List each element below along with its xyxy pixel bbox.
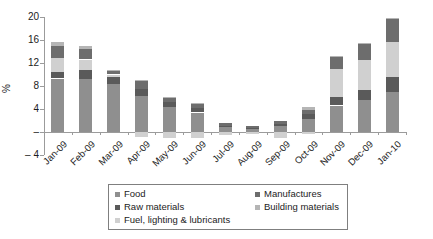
- bar-segment: [51, 72, 64, 79]
- bar-segment: [191, 103, 204, 104]
- bar-segment: [246, 132, 259, 134]
- y-tick-mark: [40, 109, 44, 110]
- bar-segment: [330, 69, 343, 97]
- bar-segment: [274, 121, 287, 124]
- bar-segment: [219, 132, 232, 135]
- bar-segment: [302, 110, 315, 115]
- bar-segment: [386, 42, 399, 77]
- x-tick-mark: [44, 132, 45, 135]
- bar-segment: [107, 77, 120, 84]
- bar-segment: [246, 128, 259, 129]
- x-tick-mark: [183, 132, 184, 135]
- bar-segment: [386, 18, 399, 19]
- y-tick-label: 12: [0, 58, 39, 68]
- bar-segment: [330, 56, 343, 57]
- y-tick-mark: [40, 63, 44, 64]
- bar-segment: [330, 106, 343, 132]
- bar-segment: [219, 126, 232, 128]
- x-tick-mark: [267, 132, 268, 135]
- bar-segment: [135, 89, 148, 96]
- bar-segment: [246, 126, 259, 128]
- bar-segment: [79, 79, 92, 132]
- bar-segment: [358, 100, 371, 132]
- bar-segment: [135, 96, 148, 132]
- x-tick-mark: [295, 132, 296, 135]
- bar-segment: [274, 124, 287, 126]
- y-tick-mark: [40, 40, 44, 41]
- legend-swatch-icon: [115, 218, 120, 223]
- bar-segment: [274, 132, 287, 138]
- bar-segment: [191, 132, 204, 138]
- x-tick-mark: [378, 132, 379, 135]
- bar-segment: [163, 107, 176, 132]
- bar-segment: [107, 70, 120, 71]
- bar-segment: [302, 119, 315, 132]
- bar-segment: [302, 114, 315, 119]
- bar-segment: [191, 113, 204, 133]
- y-tick-mark: [40, 86, 44, 87]
- bar-segment: [107, 71, 120, 74]
- bar-segment: [219, 123, 232, 125]
- x-tick-mark: [72, 132, 73, 135]
- x-tick-mark: [322, 132, 323, 135]
- x-tick-mark: [155, 132, 156, 135]
- y-tick-label: 4: [0, 104, 39, 114]
- legend-label: Fuel, lighting & lubricants: [124, 215, 230, 225]
- y-tick-label: 16: [0, 35, 39, 45]
- bar-segment: [330, 57, 343, 69]
- bar-segment: [163, 102, 176, 107]
- y-tick-label: –: [0, 127, 39, 137]
- x-tick-mark: [406, 132, 407, 135]
- x-tick-mark: [211, 132, 212, 135]
- bar-segment: [163, 132, 176, 138]
- bar-segment: [358, 90, 371, 100]
- x-tick-mark: [350, 132, 351, 135]
- bar-segment: [51, 58, 64, 72]
- x-tick-mark: [128, 132, 129, 135]
- stacked-bar-chart: % FoodRaw materialsFuel, lighting & lubr…: [0, 0, 433, 239]
- y-tick-label: 8: [0, 81, 39, 91]
- y-tick-label: – 4: [0, 150, 39, 160]
- bar-segment: [79, 70, 92, 79]
- bar-segment: [135, 81, 148, 89]
- bar-segment: [51, 42, 64, 47]
- bar-segment: [386, 92, 399, 132]
- bar-segment: [302, 132, 315, 134]
- bar-segment: [358, 43, 371, 44]
- bar-segment: [302, 107, 315, 110]
- x-tick-mark: [239, 132, 240, 135]
- x-tick-mark: [100, 132, 101, 135]
- bar-segment: [107, 84, 120, 132]
- bar-segment: [191, 108, 204, 112]
- y-tick-mark: [40, 17, 44, 18]
- bar-segment: [135, 132, 148, 137]
- bar-segment: [51, 79, 64, 133]
- bar-segment: [358, 44, 371, 60]
- bar-segment: [79, 46, 92, 49]
- y-tick-label: 20: [0, 12, 39, 22]
- bar-segment: [163, 97, 176, 98]
- bar-segment: [79, 49, 92, 60]
- bar-segment: [79, 60, 92, 70]
- legend-item: Fuel, lighting & lubricants: [115, 215, 230, 225]
- bar-segment: [386, 77, 399, 92]
- bar-segment: [51, 46, 64, 58]
- bar-segment: [163, 98, 176, 103]
- bar-segment: [386, 19, 399, 42]
- bar-segment: [107, 75, 120, 77]
- bar-segment: [358, 60, 371, 91]
- bar-segment: [330, 97, 343, 106]
- bar-segment: [135, 80, 148, 81]
- bar-segment: [191, 104, 204, 109]
